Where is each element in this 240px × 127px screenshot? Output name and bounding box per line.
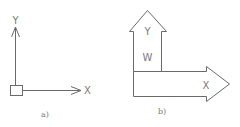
figure-a: Y X a) — [11, 15, 92, 119]
up-arrow-label-w: W — [143, 52, 153, 63]
right-block-arrow — [134, 67, 230, 102]
y-axis-label: Y — [11, 15, 19, 26]
x-axis-label: X — [84, 85, 91, 96]
figure-b: Y W X b) — [130, 11, 230, 117]
caption-a: a) — [41, 110, 49, 119]
diagram-canvas: Y X a) Y W X b) — [0, 0, 240, 127]
right-arrow-label-x: X — [203, 80, 210, 91]
origin-square — [11, 86, 23, 96]
caption-b: b) — [158, 107, 166, 116]
up-arrow-label-y: Y — [143, 26, 151, 37]
